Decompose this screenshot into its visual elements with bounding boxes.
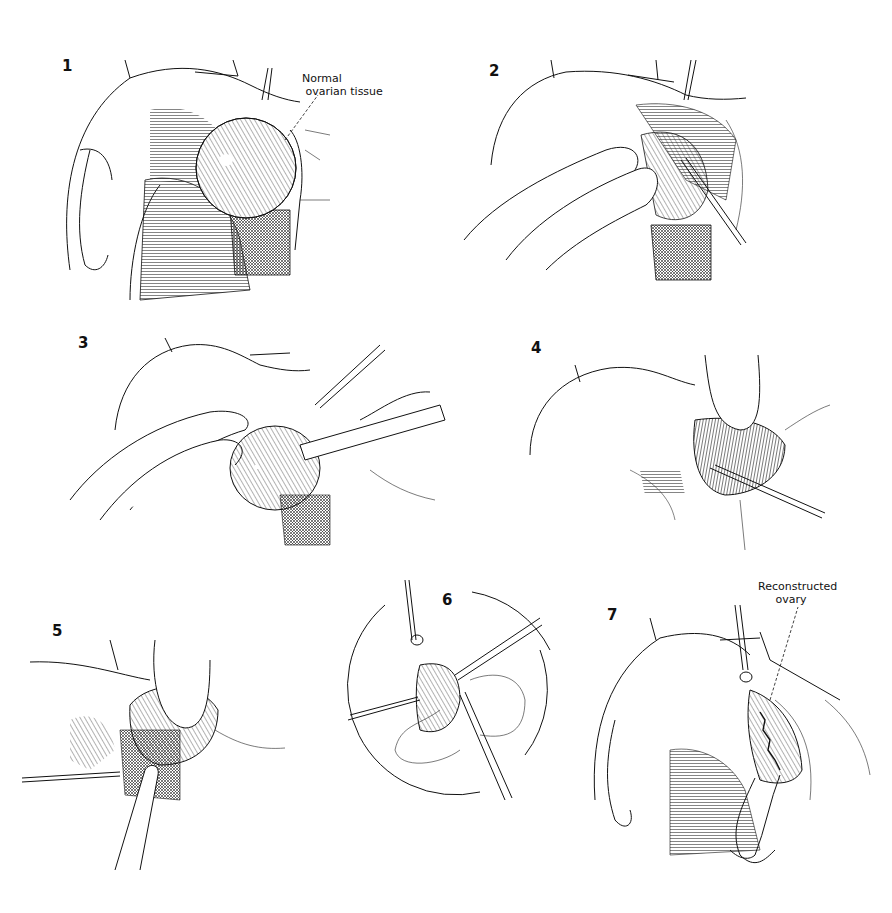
- panel-2: 2: [446, 0, 892, 320]
- panel-3-illustration: [60, 320, 480, 580]
- panel-6: 6: [320, 570, 580, 880]
- panel-6-illustration: [320, 570, 580, 880]
- panel-1: 1 Normal ovarian tissue: [0, 0, 446, 320]
- panel-1-illustration: [0, 0, 446, 320]
- panel-2-illustration: [446, 0, 892, 320]
- panel-4-illustration: [500, 320, 840, 560]
- panel-7: 7 Reconstructed ovary: [580, 570, 892, 910]
- panel-4: 4: [500, 320, 840, 560]
- panel-7-illustration: [580, 570, 892, 910]
- panel-3: 3: [60, 320, 480, 580]
- panel-5-illustration: [0, 580, 320, 880]
- panel-5: 5: [0, 580, 320, 880]
